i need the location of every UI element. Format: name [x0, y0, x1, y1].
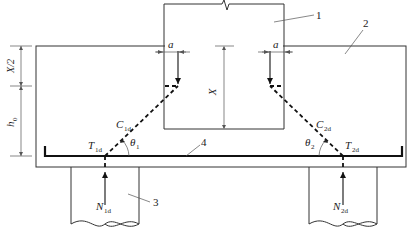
- dimension-x: [215, 46, 234, 129]
- angle-arc-theta1: [122, 140, 129, 156]
- label-part-1: 1: [316, 9, 322, 21]
- label-c1d: C 1d: [116, 118, 132, 133]
- label-n2d-sub: 2d: [341, 207, 349, 215]
- label-a-left: a: [168, 38, 174, 50]
- label-n1d: N 1d: [95, 200, 112, 215]
- label-part-4: 4: [201, 136, 207, 148]
- label-a-right: a: [273, 38, 279, 50]
- label-t2d-main: T: [345, 139, 352, 151]
- label-theta2: θ 2: [305, 136, 315, 151]
- label-t1d-sub: 1d: [95, 146, 103, 154]
- label-part-2: 2: [363, 17, 369, 29]
- diagram-canvas: 1 2 3 4 a a X X/2 h 0 C 1d C 2d T 1d T 2…: [0, 0, 415, 236]
- label-n1d-sub: 1d: [104, 207, 112, 215]
- label-theta2-sub: 2: [311, 143, 315, 151]
- leader-4: [186, 145, 200, 156]
- label-c2d: C 2d: [316, 118, 332, 133]
- label-x-half: X/2: [5, 59, 16, 74]
- leader-1: [274, 15, 314, 22]
- label-n2d-main: N: [332, 200, 341, 212]
- label-c2d-main: C: [316, 118, 324, 130]
- label-c1d-main: C: [116, 118, 124, 130]
- label-n2d: N 2d: [332, 200, 349, 215]
- label-n1d-main: N: [95, 200, 104, 212]
- label-t2d: T 2d: [345, 139, 360, 154]
- column-top-breakline: [164, 0, 284, 10]
- label-t1d-main: T: [88, 139, 95, 151]
- label-theta1: θ 1: [130, 136, 140, 151]
- label-c2d-sub: 2d: [324, 125, 332, 133]
- label-x: X: [206, 87, 218, 96]
- label-t1d: T 1d: [88, 139, 103, 154]
- strut-and-tie-diagram: 1 2 3 4 a a X X/2 h 0 C 1d C 2d T 1d T 2…: [0, 0, 415, 236]
- angle-arc-theta2: [319, 140, 326, 156]
- leader-2: [345, 30, 363, 54]
- label-h0-sub: 0: [11, 117, 19, 121]
- label-c1d-sub: 1d: [124, 125, 132, 133]
- label-theta1-sub: 1: [136, 143, 140, 151]
- label-t2d-sub: 2d: [352, 146, 360, 154]
- label-part-3: 3: [153, 196, 159, 208]
- label-h0: h 0: [4, 117, 19, 127]
